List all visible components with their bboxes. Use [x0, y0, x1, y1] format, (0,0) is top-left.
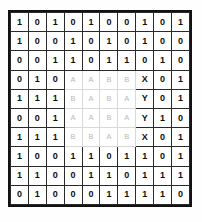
grid-cell-digit: 1 [118, 147, 136, 166]
grid-row: 111BBABX01 [11, 128, 190, 147]
grid-cell-faint: B [118, 128, 136, 147]
grid-cell-faint: B [100, 70, 118, 89]
grid-cell-digit: 0 [154, 13, 172, 32]
grid-cell-faint: B [118, 70, 136, 89]
grid-cell-marker: X [136, 70, 154, 89]
grid-cell-digit: 0 [82, 185, 100, 204]
grid-cell-digit: 1 [46, 51, 64, 70]
grid-cell-digit: 0 [28, 51, 46, 70]
grid-cell-digit: 1 [172, 70, 190, 89]
grid-cell-digit: 1 [136, 13, 154, 32]
grid-cell-digit: 0 [100, 147, 118, 166]
grid-cell-digit: 0 [46, 185, 64, 204]
grid-cell-marker: Y [136, 108, 154, 127]
grid-cell-digit: 1 [154, 51, 172, 70]
grid-row: 1001101101 [11, 147, 190, 166]
grid-cell-faint: A [118, 89, 136, 108]
grid-cell-digit: 1 [11, 13, 29, 32]
grid-cell-digit: 0 [46, 166, 64, 185]
grid-cell-digit: 1 [28, 70, 46, 89]
grid-cell-digit: 0 [118, 13, 136, 32]
grid-cell-digit: 1 [100, 32, 118, 51]
grid-cell-digit: 0 [11, 185, 29, 204]
grid-cell-digit: 1 [82, 166, 100, 185]
grid-cell-digit: 1 [154, 166, 172, 185]
grid-cell-digit: 1 [100, 185, 118, 204]
grid-cell-digit: 0 [172, 32, 190, 51]
grid-cell-faint: A [82, 89, 100, 108]
grid-cell-digit: 1 [11, 128, 29, 147]
grid-cell-digit: 0 [11, 70, 29, 89]
grid-body: 101010010110010101000011011010010AABBX01… [11, 13, 190, 205]
grid-cell-digit: 0 [136, 51, 154, 70]
grid-cell-faint: B [82, 128, 100, 147]
grid-cell-faint: A [64, 70, 82, 89]
grid-cell-digit: 1 [136, 147, 154, 166]
grid-cell-digit: 1 [46, 128, 64, 147]
grid-cell-digit: 0 [28, 13, 46, 32]
grid-cell-faint: B [100, 108, 118, 127]
grid-cell-digit: 1 [64, 147, 82, 166]
grid-cell-digit: 1 [118, 51, 136, 70]
grid-cell-marker: Y [136, 89, 154, 108]
binary-matrix-table: 101010010110010101000011011010010AABBX01… [10, 12, 190, 205]
grid-cell-digit: 0 [64, 13, 82, 32]
grid-cell-digit: 1 [100, 51, 118, 70]
grid-cell-digit: 1 [154, 108, 172, 127]
grid-cell-digit: 1 [136, 166, 154, 185]
grid-cell-digit: 1 [11, 166, 29, 185]
grid-cell-faint: A [82, 108, 100, 127]
grid-cell-digit: 1 [100, 166, 118, 185]
grid-cell-digit: 0 [11, 51, 29, 70]
grid-cell-digit: 1 [11, 147, 29, 166]
grid-cell-digit: 0 [46, 70, 64, 89]
grid-cell-digit: 0 [46, 147, 64, 166]
grid-cell-digit: 0 [118, 32, 136, 51]
grid-cell-digit: 1 [64, 32, 82, 51]
grid-cell-digit: 0 [28, 108, 46, 127]
grid-cell-digit: 1 [82, 147, 100, 166]
grid-cell-digit: 0 [154, 32, 172, 51]
grid-cell-digit: 0 [46, 32, 64, 51]
grid-cell-digit: 1 [28, 185, 46, 204]
grid-cell-digit: 1 [136, 32, 154, 51]
grid-cell-digit: 1 [11, 32, 29, 51]
grid-cell-digit: 1 [11, 89, 29, 108]
binary-matrix-figure: 101010010110010101000011011010010AABBX01… [0, 0, 202, 222]
grid-cell-digit: 0 [100, 13, 118, 32]
grid-cell-digit: 0 [28, 147, 46, 166]
grid-row: 0100011110 [11, 185, 190, 204]
grid-cell-faint: B [100, 89, 118, 108]
grid-cell-digit: 1 [46, 13, 64, 32]
grid-cell-faint: A [118, 108, 136, 127]
grid-cell-digit: 0 [154, 147, 172, 166]
grid-row: 010AABBX01 [11, 70, 190, 89]
grid-cell-digit: 1 [136, 185, 154, 204]
grid-row: 1010100101 [11, 13, 190, 32]
grid-cell-digit: 1 [172, 147, 190, 166]
grid-cell-digit: 1 [154, 185, 172, 204]
grid-cell-digit: 0 [11, 108, 29, 127]
grid-row: 0011011010 [11, 51, 190, 70]
grid-cell-digit: 1 [118, 185, 136, 204]
grid-cell-digit: 1 [172, 128, 190, 147]
grid-row: 1001010100 [11, 32, 190, 51]
grid-cell-digit: 0 [28, 32, 46, 51]
grid-cell-digit: 1 [28, 89, 46, 108]
grid-cell-digit: 1 [82, 13, 100, 32]
grid-cell-digit: 1 [28, 128, 46, 147]
grid-cell-digit: 0 [64, 185, 82, 204]
grid-row: 1100110111 [11, 166, 190, 185]
grid-cell-marker: X [136, 128, 154, 147]
grid-cell-digit: 1 [172, 89, 190, 108]
grid-cell-digit: 1 [172, 166, 190, 185]
grid-cell-faint: B [64, 89, 82, 108]
grid-cell-digit: 1 [172, 13, 190, 32]
grid-cell-faint: A [100, 128, 118, 147]
grid-cell-digit: 1 [46, 89, 64, 108]
grid-row: 111BABAY01 [11, 89, 190, 108]
grid-cell-digit: 0 [64, 166, 82, 185]
grid-cell-digit: 0 [82, 51, 100, 70]
grid-cell-faint: A [82, 70, 100, 89]
grid-cell-digit: 0 [172, 108, 190, 127]
